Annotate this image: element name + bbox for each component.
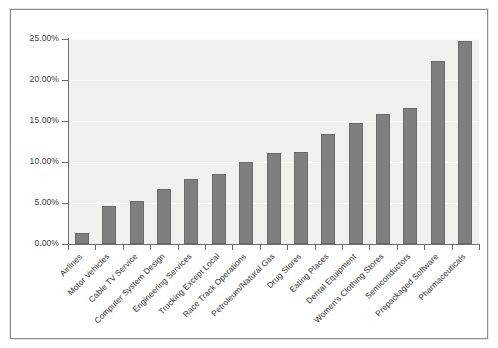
bar	[130, 201, 144, 244]
y-axis-tick-label: 0.00%	[11, 238, 59, 248]
gridline	[69, 39, 479, 40]
bar	[75, 233, 89, 244]
bar	[458, 41, 472, 244]
x-axis-tick	[369, 245, 370, 250]
bar	[321, 134, 335, 244]
x-axis-tick	[205, 245, 206, 250]
y-axis-tick-label: 5.00%	[11, 197, 59, 207]
x-axis-tick	[68, 245, 69, 250]
y-axis-line	[68, 38, 69, 245]
x-axis-line	[68, 244, 480, 245]
x-axis-tick	[315, 245, 316, 250]
y-axis-tick	[62, 121, 68, 122]
x-axis-tick	[232, 245, 233, 250]
x-axis-tick	[452, 245, 453, 250]
chart-frame: 0.00%5.00%10.00%15.00%20.00%25.00% Airli…	[10, 9, 488, 339]
bar	[267, 153, 281, 244]
x-axis-tick	[260, 245, 261, 250]
bar	[294, 152, 308, 244]
bar	[239, 162, 253, 244]
gridline	[69, 80, 479, 81]
y-axis-tick	[62, 162, 68, 163]
bar	[157, 189, 171, 244]
x-axis-tick	[479, 245, 480, 250]
x-axis-label: Airlines	[58, 252, 84, 278]
bar	[431, 61, 445, 244]
y-axis-tick-label: 25.00%	[11, 33, 59, 43]
x-axis-tick	[95, 245, 96, 250]
y-axis-tick	[62, 39, 68, 40]
bar	[376, 114, 390, 244]
y-axis-tick	[62, 203, 68, 204]
x-axis-tick	[178, 245, 179, 250]
y-axis-tick-label: 20.00%	[11, 74, 59, 84]
x-axis-tick	[287, 245, 288, 250]
bar	[102, 206, 116, 244]
x-axis-tick	[397, 245, 398, 250]
x-axis-tick	[150, 245, 151, 250]
x-axis-label: Cable TV Service	[87, 252, 139, 304]
y-axis-tick-label: 10.00%	[11, 156, 59, 166]
bar	[403, 108, 417, 244]
bar	[212, 174, 226, 244]
bar	[184, 179, 198, 244]
gridline	[69, 121, 479, 122]
y-axis-tick	[62, 80, 68, 81]
x-axis-tick	[342, 245, 343, 250]
y-axis-tick-label: 15.00%	[11, 115, 59, 125]
x-axis-tick	[123, 245, 124, 250]
x-axis-tick	[424, 245, 425, 250]
bar	[349, 123, 363, 244]
figure-root: 0.00%5.00%10.00%15.00%20.00%25.00% Airli…	[0, 0, 498, 348]
